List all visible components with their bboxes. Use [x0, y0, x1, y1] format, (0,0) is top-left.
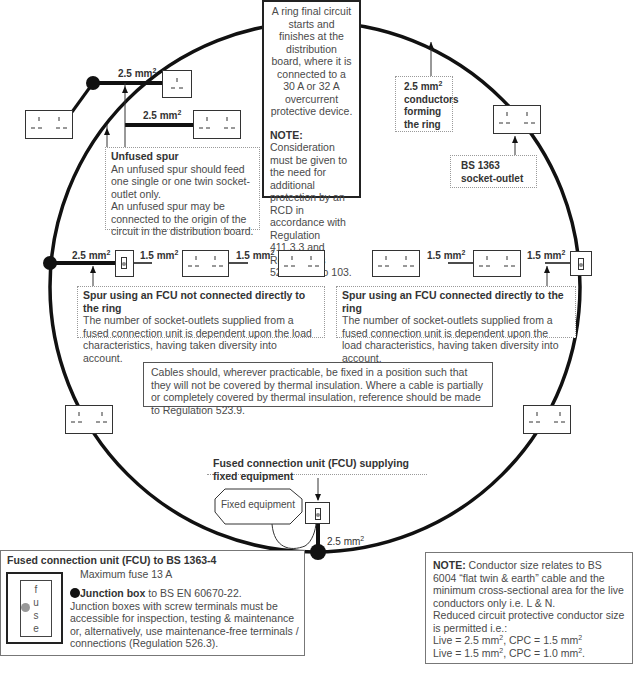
cable-size-unfused-spur: 2.5 mm2 — [143, 110, 181, 121]
socket-outlet-twin-left-spur-1 — [182, 250, 229, 277]
fuse-dot-icon — [21, 603, 30, 612]
junction-box-icon — [70, 588, 80, 598]
fcu-fixed-equipment — [305, 502, 330, 524]
fcu-left-spur — [115, 250, 134, 277]
socket-outlet-single-top — [162, 70, 192, 98]
junction-box-top-left — [86, 76, 100, 90]
socket-outlet-twin-ring-upper-right — [493, 105, 541, 134]
fcu-fixed-equipment-label: Fused connection unit (FCU) supplying fi… — [207, 453, 427, 475]
socket-outlet-twin-ring-lower-right — [523, 405, 571, 434]
fcu-legend-symbol: f u s e — [6, 572, 63, 644]
socket-outlet-twin-right-spur-1 — [372, 250, 420, 277]
conductor-size-note: NOTE: Conductor size relates to BS 6004 … — [425, 552, 633, 664]
ring-description-text: A ring final circuit starts and finishes… — [270, 5, 353, 118]
cable-size-left-spur-1: 2.5 mm2 — [72, 250, 110, 261]
socket-outlet-twin-ring-upper-left — [25, 110, 73, 139]
spur-connected-note: Spur using an FCU connected directly to … — [336, 286, 576, 338]
thermal-insulation-note: Cables should, wherever practicable, be … — [143, 362, 493, 407]
socket-outlet-twin-left-spur-2 — [278, 250, 325, 277]
junction-box-legend: Junction box to BS EN 60670-22. Junction… — [70, 587, 302, 650]
max-fuse-text: Maximum fuse 13 A — [80, 568, 172, 581]
fcu-right-spur — [570, 251, 592, 276]
cable-size-left-spur-2: 1.5 mm2 — [140, 250, 178, 261]
unfused-spur-note: Unfused spur An unfused spur should feed… — [105, 147, 260, 230]
socket-outlet-twin-ring-lower-left — [65, 405, 113, 434]
ring-conductors-label: 2.5 mm2 conductors forming the ring — [395, 76, 453, 132]
fixed-equipment-label: Fixed equipment — [221, 499, 295, 512]
socket-outlet-twin-unfused-spur — [193, 110, 241, 139]
junction-box-left — [43, 256, 57, 270]
socket-outlet-label: BS 1363 socket-outlet — [450, 155, 537, 188]
junction-box-bottom — [310, 544, 326, 560]
socket-outlet-twin-right-spur-2 — [473, 250, 521, 277]
cable-size-right-spur-2: 1.5 mm2 — [527, 250, 565, 261]
ring-description-box: A ring final circuit starts and finishes… — [262, 0, 361, 198]
cable-size-left-spur-3: 1.5 mm2 — [236, 250, 274, 261]
cable-size-top-spur: 2.5 mm2 — [118, 68, 156, 79]
cable-size-fixed-equipment: 2.5 mm2 — [327, 536, 364, 547]
spur-not-connected-note: Spur using an FCU not connected directly… — [77, 286, 325, 338]
cable-size-right-spur-1: 1.5 mm2 — [427, 250, 465, 261]
